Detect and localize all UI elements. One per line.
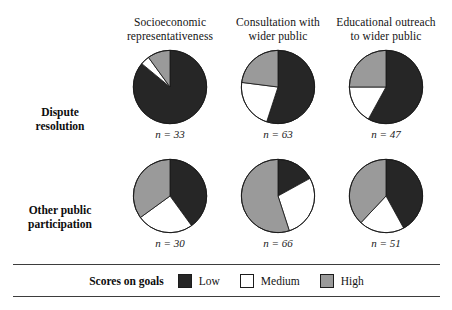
legend-rule-top: [13, 264, 440, 265]
pie-n-label: n = 63: [223, 128, 333, 140]
column-header-line2: representativeness: [111, 30, 229, 44]
pie-cell-other-socioeconomic: n = 30: [115, 157, 225, 257]
pie-cell-other-consultation: n = 66: [223, 157, 333, 257]
column-header-line1: Educational outreach: [325, 16, 447, 30]
row-label-line2: resolution: [6, 119, 114, 133]
pie-slice-high: [242, 50, 278, 87]
column-header-line2: to wider public: [325, 30, 447, 44]
pie-chart-figure: Socioeconomic representativeness Consult…: [0, 0, 452, 310]
row-label-line2: participation: [6, 217, 114, 231]
pie-cell-other-educational: n = 51: [331, 157, 441, 257]
legend-item-low: Low: [178, 274, 220, 288]
row-label-line1: Dispute: [6, 105, 114, 119]
pie-slice-high: [349, 50, 386, 87]
column-header-line1: Socioeconomic: [111, 16, 229, 30]
pie-cell-dispute-socioeconomic: n = 33: [115, 48, 225, 148]
pie-n-label: n = 47: [331, 128, 441, 140]
pie-n-label: n = 33: [115, 128, 225, 140]
pie-cell-dispute-consultation: n = 63: [223, 48, 333, 148]
legend-label-medium: Medium: [261, 275, 300, 287]
pie-chart-3: [131, 157, 209, 235]
legend-label-high: High: [341, 275, 364, 287]
row-label-line1: Other public: [6, 203, 114, 217]
pie-chart-0: [131, 48, 209, 126]
column-header-educational-outreach: Educational outreach to wider public: [325, 16, 447, 43]
legend: Scores on goals Low Medium High: [13, 268, 440, 294]
legend-item-medium: Medium: [240, 274, 300, 288]
legend-swatch-low-icon: [178, 274, 192, 288]
legend-swatch-high-icon: [320, 274, 334, 288]
pie-chart-2: [347, 48, 425, 126]
column-header-line2: wider public: [222, 30, 334, 44]
row-label-other-public-participation: Other public participation: [6, 203, 114, 231]
legend-rule-bottom: [13, 296, 440, 297]
pie-chart-5: [347, 157, 425, 235]
pie-n-label: n = 51: [331, 237, 441, 249]
pie-n-label: n = 66: [223, 237, 333, 249]
column-header-line1: Consultation with: [222, 16, 334, 30]
column-header-consultation: Consultation with wider public: [222, 16, 334, 43]
legend-label-low: Low: [199, 275, 220, 287]
legend-title: Scores on goals: [89, 275, 164, 287]
legend-swatch-medium-icon: [240, 274, 254, 288]
pie-cell-dispute-educational: n = 47: [331, 48, 441, 148]
legend-item-high: High: [320, 274, 364, 288]
pie-chart-1: [239, 48, 317, 126]
row-label-dispute-resolution: Dispute resolution: [6, 105, 114, 133]
column-header-socioeconomic: Socioeconomic representativeness: [111, 16, 229, 43]
pie-n-label: n = 30: [115, 237, 225, 249]
pie-chart-4: [239, 157, 317, 235]
